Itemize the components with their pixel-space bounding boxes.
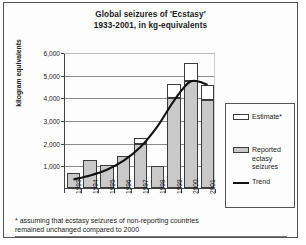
estimate-swatch-icon [233, 114, 249, 120]
legend-item-reported: Reported ectasy seizures [233, 146, 281, 172]
legend-label-trend: Trend [252, 178, 270, 187]
x-axis-label-1993: 1993 [75, 179, 82, 194]
x-axis-tick-labels: 199319941995199619971998199920002001 [64, 193, 215, 217]
plot-area [64, 53, 215, 189]
y-axis-tick-label: 2,000 [24, 140, 60, 147]
legend-label-estimate: Estimate* [252, 113, 282, 122]
x-axis-label-2000: 2000 [192, 179, 199, 194]
y-axis-tick-labels: 6,0005,0004,0003,0002,0001,000 [20, 53, 60, 189]
y-axis-tick-label: 3,000 [24, 118, 60, 125]
y-axis-tick-label: 5,000 [24, 72, 60, 79]
chart-title-line1: Global seizures of 'Ecstasy' [4, 10, 297, 21]
y-axis-tick-label: 4,000 [24, 95, 60, 102]
chart-title-line2: 1933-2001, in kg-equivalents [4, 21, 297, 32]
legend-item-estimate: Estimate* [233, 113, 282, 122]
legend-label-reported-1: Reported [252, 146, 281, 155]
x-axis-label-1999: 1999 [176, 179, 183, 194]
reported-swatch-icon [233, 147, 249, 153]
y-axis-tick-label: 1,000 [24, 163, 60, 170]
chart-legend: Estimate* Reported ectasy seizures Trend [225, 103, 295, 208]
chart-footnote: * assuming that ecstasy seizures of non-… [15, 216, 287, 235]
legend-label-reported-2: ectasy [252, 155, 281, 164]
footnote-rule [15, 236, 287, 237]
x-axis-label-2001: 2001 [209, 179, 216, 194]
chart-frame: Global seizures of 'Ecstasy' 1933-2001, … [3, 2, 298, 238]
trend-line-icon [233, 182, 249, 184]
trend-line [65, 53, 216, 189]
x-axis-label-1997: 1997 [142, 179, 149, 194]
x-axis-label-1996: 1996 [125, 179, 132, 194]
legend-item-trend: Trend [233, 178, 270, 187]
chart-title: Global seizures of 'Ecstasy' 1933-2001, … [4, 10, 297, 31]
footnote-line-1: * assuming that ecstasy seizures of non-… [15, 216, 287, 225]
footnote-line-2: remained unchanged compared to 2000 [15, 225, 287, 234]
y-axis-tick-label: 6,000 [24, 50, 60, 57]
legend-label-reported-3: seizures [252, 163, 281, 172]
x-axis-label-1995: 1995 [109, 179, 116, 194]
x-axis-label-1994: 1994 [92, 179, 99, 194]
x-axis-label-1998: 1998 [159, 179, 166, 194]
